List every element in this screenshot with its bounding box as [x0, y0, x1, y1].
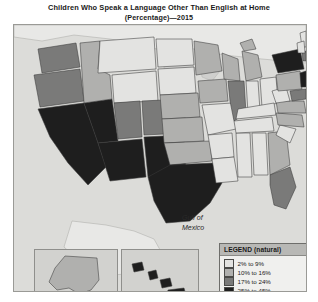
- state-north-dakota: [156, 39, 194, 67]
- state-montana: [98, 37, 156, 73]
- map-legend: LEGEND (natural) 2% to 9% 10% to 16% 17%…: [219, 243, 307, 292]
- gulf-label-line-2: Mexico: [182, 223, 204, 233]
- state-tennessee: [234, 117, 274, 133]
- legend-row: 25% to 45%: [224, 287, 307, 292]
- state-mississippi: [236, 133, 252, 177]
- legend-label: 17% to 24%: [238, 278, 271, 285]
- state-nebraska: [160, 93, 200, 119]
- legend-label: 10% to 16%: [238, 269, 271, 276]
- legend-class-list: 2% to 9% 10% to 16% 17% to 24% 25% to 45…: [220, 256, 307, 292]
- state-florida: [270, 167, 296, 209]
- state-vermont-new-hampshire: [297, 41, 305, 53]
- gulf-of-mexico-label: Gulf of Mexico: [182, 213, 204, 232]
- state-louisiana: [212, 157, 238, 183]
- state-iowa: [198, 79, 228, 103]
- state-oklahoma: [164, 141, 212, 165]
- legend-label: 2% to 9%: [238, 260, 264, 267]
- state-utah: [114, 101, 142, 139]
- state-alabama: [252, 133, 268, 175]
- legend-swatch: [224, 277, 234, 286]
- legend-header: LEGEND (natural): [220, 244, 307, 256]
- hawaii-inset: [121, 249, 199, 292]
- state-wisconsin: [222, 53, 240, 81]
- gulf-label-line-1: Gulf of: [182, 213, 204, 223]
- state-alaska: [49, 256, 99, 292]
- alaska-inset: [34, 249, 118, 292]
- legend-row: 2% to 9%: [224, 259, 307, 268]
- state-kansas: [162, 117, 204, 143]
- title-line-1: Children Who Speak a Language Other Than…: [0, 3, 318, 13]
- state-oregon: [34, 69, 84, 107]
- state-missouri: [202, 103, 236, 135]
- state-maryland: [290, 89, 306, 101]
- state-north-carolina: [276, 113, 304, 127]
- legend-label: 25% to 45%: [238, 287, 271, 292]
- map-canvas: Gulf of Mexico LEGEND (natural): [13, 24, 307, 292]
- state-washington: [38, 43, 80, 73]
- state-minnesota: [194, 41, 222, 75]
- legend-swatch: [224, 287, 234, 292]
- state-wyoming: [112, 71, 158, 103]
- figure-title: Children Who Speak a Language Other Than…: [0, 3, 318, 23]
- title-line-2: (Percentage)—2015: [0, 13, 318, 23]
- state-arkansas: [208, 133, 234, 159]
- state-pennsylvania: [276, 71, 302, 91]
- state-virginia: [276, 101, 306, 113]
- legend-swatch: [224, 268, 234, 277]
- state-hawaii: [132, 262, 188, 292]
- state-south-dakota: [158, 67, 196, 95]
- state-arizona: [98, 139, 146, 181]
- legend-swatch: [224, 259, 234, 268]
- map-figure: Children Who Speak a Language Other Than…: [0, 0, 318, 302]
- legend-row: 17% to 24%: [224, 277, 307, 286]
- state-new-jersey: [300, 71, 306, 87]
- legend-row: 10% to 16%: [224, 268, 307, 277]
